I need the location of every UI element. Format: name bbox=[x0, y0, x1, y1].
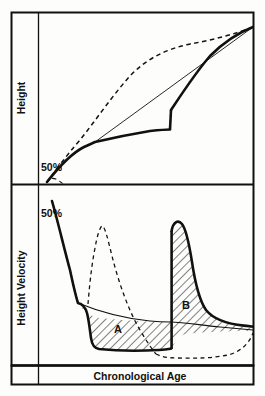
lower-panel-y-axis-label: Height Velocity bbox=[15, 250, 27, 325]
lower-panel-plot bbox=[52, 201, 253, 358]
lower-panel-percentile-label: 50% bbox=[41, 207, 63, 219]
catch-up-step-riser bbox=[170, 110, 171, 130]
reference-height-curve bbox=[47, 27, 253, 182]
growth-chart-figure: Height Height Velocity Chronological Age… bbox=[0, 0, 265, 396]
observed-height-curve-pre-step bbox=[47, 130, 170, 183]
upper-panel-y-axis-label: Height bbox=[15, 81, 27, 114]
figure-canvas: Height Height Velocity Chronological Age… bbox=[0, 0, 265, 396]
region-B-hatched-area bbox=[172, 222, 253, 349]
straight-chord-line bbox=[95, 27, 253, 142]
upper-panel-plot bbox=[47, 27, 253, 182]
region-A-label: A bbox=[114, 323, 122, 335]
region-B-label: B bbox=[182, 299, 190, 311]
upper-panel-percentile-label: 50% bbox=[41, 161, 63, 173]
x-axis-label: Chronological Age bbox=[94, 370, 187, 382]
